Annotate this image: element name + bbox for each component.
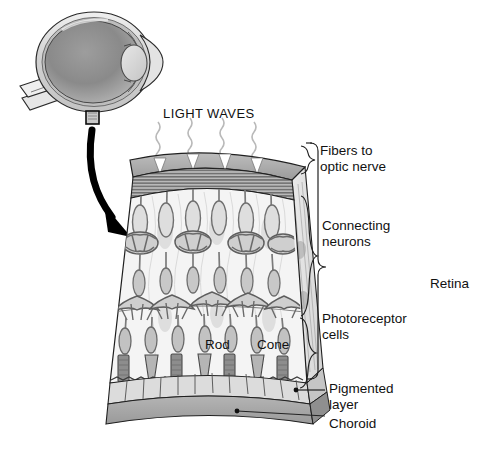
lens-shape bbox=[121, 45, 147, 81]
label-choroid: Choroid bbox=[329, 416, 376, 432]
label-fibers-line2: optic nerve bbox=[320, 159, 386, 175]
label-pigmented-line1: Pigmented bbox=[329, 381, 394, 397]
label-photoreceptor-line1: Photoreceptor bbox=[322, 311, 407, 327]
label-pigmented-line2: layer bbox=[329, 397, 358, 413]
rod-label: Rod bbox=[205, 337, 230, 353]
label-fibers-line1: Fibers to bbox=[320, 143, 373, 159]
light-waves-label: LIGHT WAVES bbox=[163, 106, 255, 122]
magnify-arrow bbox=[90, 130, 131, 237]
label-connecting-line1: Connecting bbox=[322, 218, 390, 234]
cone-label: Cone bbox=[257, 337, 289, 353]
eye-cross-section bbox=[20, 12, 163, 124]
choroid-band bbox=[106, 396, 313, 424]
label-connecting-line2: neurons bbox=[322, 234, 371, 250]
label-photoreceptor-line2: cells bbox=[322, 327, 349, 343]
figure-canvas: LIGHT WAVES Rod Cone Fibers to optic ner… bbox=[0, 0, 479, 450]
label-retina: Retina bbox=[430, 276, 469, 292]
retina-block bbox=[106, 153, 330, 424]
diagram-svg bbox=[0, 0, 479, 450]
